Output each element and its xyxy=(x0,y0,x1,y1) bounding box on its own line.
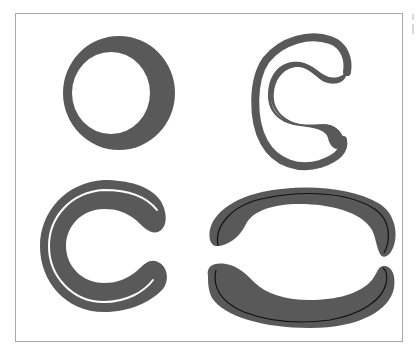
split-ellipse-shape xyxy=(208,188,396,328)
ring-shape xyxy=(63,36,175,150)
loop-with-blob-shape xyxy=(255,37,347,166)
shapes-figure xyxy=(0,0,417,354)
c-slit-shape xyxy=(40,180,167,312)
